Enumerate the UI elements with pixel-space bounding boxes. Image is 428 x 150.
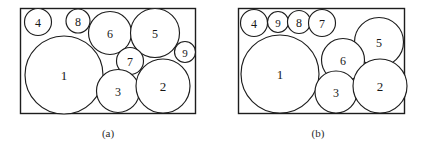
panel-b-circle-4[interactable]: 4: [241, 10, 268, 37]
panel-a: 486591732: [21, 9, 196, 115]
panel-b-circle-2[interactable]: 2: [353, 59, 407, 113]
circle-label: 7: [319, 17, 325, 31]
circle-label: 2: [160, 79, 167, 94]
panel-b-circle-9[interactable]: 9: [268, 12, 289, 33]
circle-packing-figure: 486591732498751632 (a)(b): [0, 0, 428, 150]
circle-label: 1: [277, 67, 284, 82]
circle-label: 8: [75, 15, 81, 29]
panel-a-caption: (a): [102, 127, 115, 140]
circle-label: 4: [251, 17, 257, 31]
circle-label: 6: [107, 27, 113, 41]
panel-a-circle-2[interactable]: 2: [136, 59, 190, 113]
circle-label: 3: [115, 85, 121, 99]
panel-a-circle-8[interactable]: 8: [66, 9, 90, 33]
figure-canvas: 486591732498751632 (a)(b): [0, 0, 428, 150]
captions-group: (a)(b): [102, 127, 325, 140]
circle-label: 6: [340, 54, 346, 68]
circle-label: 1: [61, 68, 68, 83]
circle-label: 7: [127, 55, 133, 69]
panel-b: 498751632: [239, 9, 408, 114]
circle-label: 3: [333, 86, 339, 100]
panel-a-circle-3[interactable]: 3: [97, 70, 140, 113]
panel-b-circle-3[interactable]: 3: [315, 71, 357, 113]
panel-b-circle-7[interactable]: 7: [309, 10, 336, 37]
panel-b-circle-1[interactable]: 1: [241, 35, 319, 113]
panels-group: 486591732498751632: [21, 9, 408, 115]
panel-b-caption: (b): [312, 127, 325, 140]
panel-b-circle-8[interactable]: 8: [288, 11, 311, 34]
panel-a-circle-4[interactable]: 4: [25, 9, 52, 36]
circle-label: 2: [377, 79, 384, 94]
circle-label: 8: [296, 16, 302, 30]
circle-label: 5: [152, 27, 158, 41]
circle-label: 5: [376, 36, 382, 50]
panel-a-circle-9[interactable]: 9: [175, 42, 196, 63]
circle-label: 9: [182, 47, 188, 59]
circle-label: 4: [35, 16, 41, 30]
circle-label: 9: [275, 17, 281, 29]
panel-a-circle-1[interactable]: 1: [25, 36, 103, 114]
